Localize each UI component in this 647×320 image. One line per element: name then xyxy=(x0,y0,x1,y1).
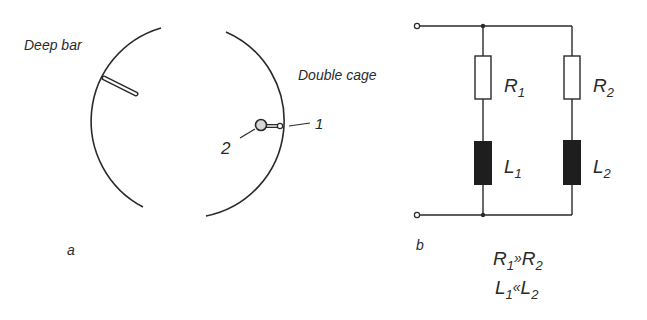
junction-top xyxy=(481,24,485,28)
leader-line-2 xyxy=(240,129,255,138)
rotor-deep-bar-half xyxy=(91,28,161,207)
panel-b-caption: b xyxy=(416,237,424,253)
junction-bottom xyxy=(481,213,485,217)
input-terminal-bottom xyxy=(414,212,419,217)
resistor-r2 xyxy=(564,56,580,99)
input-terminal-top xyxy=(414,23,419,28)
deep-bar-label: Deep bar xyxy=(24,37,83,53)
label-r2: R2 xyxy=(593,75,615,100)
label-l2: L2 xyxy=(593,156,612,181)
relation-inductance: L1«L2 xyxy=(495,277,539,302)
marker-2: 2 xyxy=(220,139,231,158)
double-cage-slot xyxy=(256,120,283,131)
label-l1: L1 xyxy=(504,156,522,181)
deep-bar-slot xyxy=(104,78,136,94)
rotor-arc-left xyxy=(91,28,161,207)
diagram-canvas: Deep bar Double cage 1 2 a R1 R2 L1 L2 b… xyxy=(0,0,647,320)
leader-line-1 xyxy=(289,123,310,126)
relation-resistance: R1»R2 xyxy=(493,248,544,273)
inner-cage-bar xyxy=(256,120,267,131)
panel-a-caption: a xyxy=(67,242,75,258)
double-cage-label: Double cage xyxy=(298,67,377,83)
inductor-l2 xyxy=(563,140,581,185)
outer-cage-bar xyxy=(277,123,282,128)
label-r1: R1 xyxy=(504,75,525,100)
marker-1: 1 xyxy=(315,115,323,132)
equivalent-circuit xyxy=(420,26,572,215)
inductor-l1 xyxy=(474,141,492,185)
resistor-r1 xyxy=(475,56,491,99)
